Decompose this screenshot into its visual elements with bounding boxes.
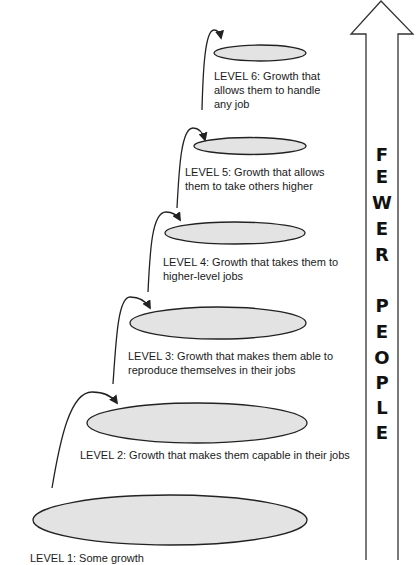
level-3-label: LEVEL 3: Growth that makes them able tor… [128, 349, 333, 377]
level-6-ellipse [214, 45, 306, 61]
fewer-people-letter: E [366, 167, 398, 187]
level-6-label: LEVEL 6: Growth thatallows them to handl… [214, 69, 320, 111]
level-5-label: LEVEL 5: Growth that allowsthem to take … [185, 165, 325, 193]
level-3-ellipse [130, 307, 306, 339]
fewer-people-letter: L [366, 398, 398, 418]
level-1-ellipse [33, 495, 307, 545]
level-5-label-line: LEVEL 5: Growth that allows [185, 165, 325, 179]
level-4-label-line: higher-level jobs [163, 269, 338, 283]
level-3-label-line: reproduce themselves in their jobs [128, 363, 333, 377]
level-4-label-line: LEVEL 4: Growth that takes them to [163, 255, 338, 269]
fewer-people-arrow-icon [351, 1, 413, 560]
fewer-people-letter: W [366, 193, 398, 213]
level-6-label-line: LEVEL 6: Growth that [214, 69, 320, 83]
curved-arrow-icon [52, 392, 117, 488]
level-3-label-line: LEVEL 3: Growth that makes them able to [128, 349, 333, 363]
fewer-people-letter: R [366, 245, 398, 265]
level-5-label-line: them to take others higher [185, 179, 325, 193]
level-2-label-line: LEVEL 2: Growth that makes them capable … [80, 448, 350, 462]
level-1-label-line: LEVEL 1: Some growth [30, 551, 144, 565]
level-1-label: LEVEL 1: Some growth [30, 551, 144, 565]
level-2-label: LEVEL 2: Growth that makes them capable … [80, 448, 350, 462]
fewer-people-letter: E [366, 322, 398, 342]
level-4-label: LEVEL 4: Growth that takes them tohigher… [163, 255, 338, 283]
level-6-label-line: allows them to handle [214, 83, 320, 97]
level-ellipses [33, 45, 307, 545]
fewer-people-letter: P [366, 296, 398, 316]
fewer-people-letter: E [366, 423, 398, 443]
fewer-people-letter: E [366, 219, 398, 239]
fewer-people-letter: P [366, 373, 398, 393]
fewer-people-letter: F [366, 145, 398, 165]
level-2-ellipse [87, 403, 307, 443]
level-4-ellipse [165, 222, 305, 244]
level-5-ellipse [194, 138, 306, 155]
level-6-label-line: any job [214, 97, 320, 111]
fewer-people-letter: O [366, 348, 398, 368]
